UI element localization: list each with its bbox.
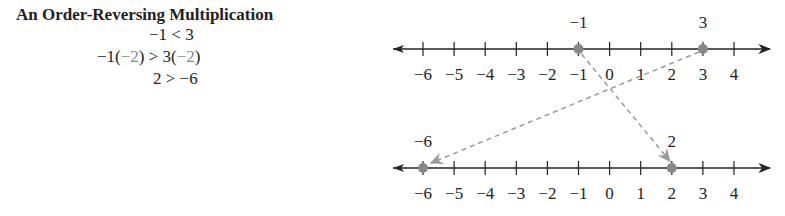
bottom-line-tick-label: 1 — [636, 184, 645, 203]
bottom-line-point-label: −6 — [414, 132, 432, 151]
top-line-tick-label: 3 — [699, 65, 708, 84]
bottom-line-tick-label: −4 — [476, 184, 495, 203]
top-line-point — [698, 44, 708, 54]
bottom-line-point-label: 2 — [668, 132, 677, 151]
mapping-arrow-3-to-neg6 — [431, 52, 699, 163]
bottom-line-tick-label: −1 — [569, 184, 587, 203]
top-line-tick-label: 0 — [605, 65, 614, 84]
bottom-line-tick-label: 2 — [668, 184, 677, 203]
top-line-point-label: 3 — [699, 13, 708, 32]
top-line-tick-label: −3 — [507, 65, 525, 84]
top-line-tick-label: 2 — [668, 65, 677, 84]
bottom-line-tick-label: 4 — [730, 184, 739, 203]
bottom-line-tick-label: −5 — [445, 184, 463, 203]
top-line-point-label: −1 — [569, 13, 587, 32]
bottom-line-tick-label: 0 — [605, 184, 614, 203]
number-line-diagram: −6−5−4−3−2−101234−13−6−5−4−3−2−101234−62 — [0, 0, 785, 216]
bottom-line-point — [667, 163, 677, 173]
bottom-line-point — [418, 163, 428, 173]
top-line-tick-label: −5 — [445, 65, 463, 84]
top-line-tick-label: −6 — [414, 65, 432, 84]
top-line-point — [574, 44, 584, 54]
bottom-line-tick-label: −6 — [414, 184, 432, 203]
bottom-line-tick-label: 3 — [699, 184, 708, 203]
top-line-tick-label: 1 — [636, 65, 645, 84]
bottom-line-tick-label: −2 — [538, 184, 556, 203]
top-line-tick-label: −4 — [476, 65, 495, 84]
bottom-line-tick-label: −3 — [507, 184, 525, 203]
top-line-tick-label: −1 — [569, 65, 587, 84]
top-line-tick-label: 4 — [730, 65, 739, 84]
top-line-tick-label: −2 — [538, 65, 556, 84]
